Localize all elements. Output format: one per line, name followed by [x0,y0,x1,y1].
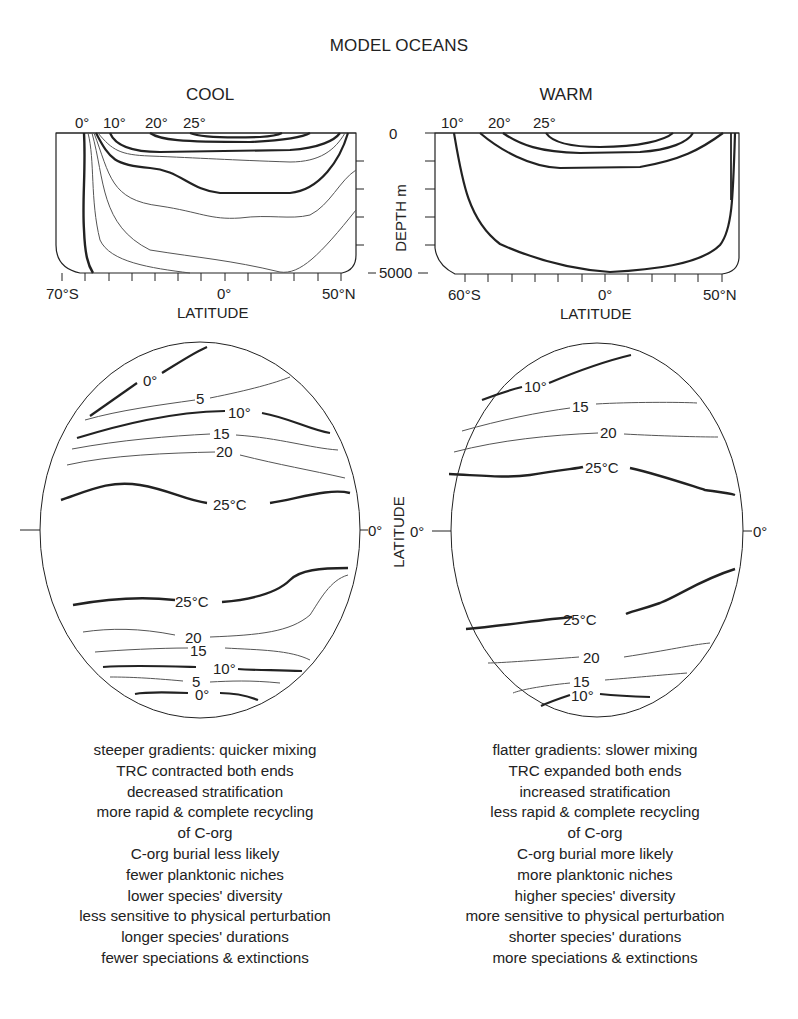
equator-label: 0° [368,522,382,539]
isotherm-label: 20 [600,424,617,441]
warm-x-tick-left: 60°S [448,286,481,303]
note-line: TRC expanded both ends [420,761,770,782]
note-line: steeper gradients: quicker mixing [40,740,370,761]
note-line: shorter species' durations [420,927,770,948]
note-line: less rapid & complete recycling [420,802,770,823]
warm-top-label: 20° [488,114,511,131]
depth-top-label: 0 [389,125,397,142]
cool-x-tick-left: 70°S [46,285,79,302]
note-line: more sensitive to physical perturbation [420,906,770,927]
note-line: TRC contracted both ends [40,761,370,782]
isotherm-label: 25°C [585,459,619,476]
cool-top-label: 20° [145,114,168,131]
isotherm-label: 10° [571,687,594,704]
isotherm-label: 25°C [175,593,209,610]
isotherm-label: 5 [196,390,204,407]
note-line: of C-org [40,823,370,844]
note-line: higher species' diversity [420,886,770,907]
cool-map-labels: 0° 5 10° 15 20 25°C 25°C 20 15 10° 5 0° … [143,372,382,703]
note-line: of C-org [420,823,770,844]
isotherm-label: 20 [583,649,600,666]
note-line: flatter gradients: slower mixing [420,740,770,761]
warm-x-tick-center: 0° [598,286,612,303]
isotherm-label: 15 [213,425,230,442]
warm-notes: flatter gradients: slower mixing TRC exp… [420,740,770,969]
isotherm-label: 25°C [563,611,597,628]
warm-map-labels: 10° 15 20 25°C 25°C 20 15 10° 0° 0° LATI… [390,378,767,704]
note-line: less sensitive to physical perturbation [40,906,370,927]
cool-section-labels: 0° 10° 20° 25° 70°S 0° 50°N LATITUDE [46,114,356,321]
depth-bottom-label: 5000 [379,264,412,281]
warm-x-tick-right: 50°N [703,286,737,303]
cool-x-tick-right: 50°N [322,285,356,302]
depth-axis-label: DEPTH m [392,184,409,252]
isotherm-label: 15 [572,398,589,415]
isotherm-label: 0° [195,686,209,703]
note-line: C-org burial less likely [40,844,370,865]
cool-top-label: 0° [75,114,89,131]
isotherm-label: 10° [213,660,236,677]
equator-label: 0° [753,523,767,540]
warm-section-labels: 10° 20° 25° 60°S 0° 50°N LATITUDE [441,114,737,322]
note-line: longer species' durations [40,927,370,948]
isotherm-label: 10° [524,378,547,395]
cool-top-label: 10° [103,114,126,131]
isotherm-label: 10° [228,404,251,421]
map-latitude-axis-label: LATITUDE [390,496,407,567]
note-line: increased stratification [420,782,770,803]
note-line: lower species' diversity [40,886,370,907]
warm-depth-section [418,133,739,282]
isotherm-label: 15 [190,642,207,659]
cool-map [20,342,368,718]
note-line: more planktonic niches [420,865,770,886]
isotherm-label: 20 [216,443,233,460]
isotherm-label: 0° [143,372,157,389]
cool-x-tick-center: 0° [217,285,231,302]
cool-notes: steeper gradients: quicker mixing TRC co… [40,740,370,969]
warm-top-label: 25° [533,114,556,131]
note-line: more speciations & extinctions [420,948,770,969]
cool-depth-section [56,133,376,281]
cool-x-axis-label: LATITUDE [177,304,248,321]
isotherm-label: 25°C [213,496,247,513]
note-line: C-org burial more likely [420,844,770,865]
note-line: more rapid & complete recycling [40,802,370,823]
note-line: fewer planktonic niches [40,865,370,886]
warm-x-axis-label: LATITUDE [560,305,631,322]
note-line: fewer speciations & extinctions [40,948,370,969]
note-line: decreased stratification [40,782,370,803]
warm-top-label: 10° [441,114,464,131]
cool-top-label: 25° [183,114,206,131]
equator-label: 0° [410,523,424,540]
depth-axis-labels: 0 5000 DEPTH m [379,125,412,281]
